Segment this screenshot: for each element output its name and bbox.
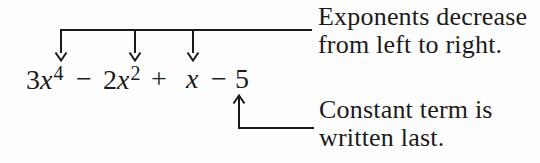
constant-callout-line-2: written last. <box>319 124 493 152</box>
exponents-callout-line-2: from left to right. <box>318 31 527 59</box>
operator-minus-1: − <box>76 63 92 95</box>
term-3-variable: x <box>186 63 198 94</box>
down-arrow-icon <box>130 53 141 61</box>
term-1: 3x4 <box>26 63 63 96</box>
down-arrow-icon <box>56 53 67 61</box>
constant-callout: Constant term is written last. <box>319 96 493 152</box>
term-1-variable: x <box>40 64 52 95</box>
term-2-variable: x <box>117 64 129 95</box>
term-2-coefficient: 2 <box>103 64 117 95</box>
diagram-canvas: 3x4 − 2x2 + x − 5 Exponents decrease fro… <box>0 0 540 163</box>
exponents-callout: Exponents decrease from left to right. <box>318 3 527 59</box>
term-3: x <box>186 63 198 95</box>
term-4-constant: 5 <box>235 63 249 95</box>
constant-callout-line-1: Constant term is <box>319 96 493 124</box>
polynomial-expression: 3x4 − 2x2 + x − 5 <box>0 63 540 97</box>
exponents-bracket-line <box>61 30 312 53</box>
term-1-exponent: 4 <box>53 62 63 84</box>
term-2-exponent: 2 <box>130 62 140 84</box>
operator-plus: + <box>151 63 167 95</box>
term-1-coefficient: 3 <box>26 64 40 95</box>
operator-minus-2: − <box>211 63 227 95</box>
constant-elbow-line <box>239 96 314 128</box>
down-arrow-icon <box>188 53 199 61</box>
term-2: 2x2 <box>103 63 140 96</box>
exponents-callout-line-1: Exponents decrease <box>318 3 527 31</box>
